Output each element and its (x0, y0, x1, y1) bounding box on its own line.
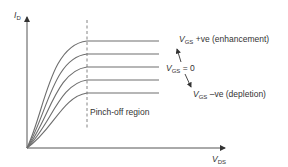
x-axis-label-var: V (212, 154, 218, 164)
depletion-label-var: V (193, 89, 199, 99)
vgs-zero-label-text: = 0 (180, 63, 194, 73)
y-axis-label-sub: D (16, 15, 20, 21)
diagram-canvas (0, 0, 288, 167)
drain-curves (27, 41, 159, 148)
enhancement-arrow (177, 49, 181, 62)
depletion-label-text: –ve (depletion) (207, 89, 266, 99)
vgs-zero-label: VGS = 0 (166, 64, 195, 73)
vgs-zero-label-sub: GS (172, 68, 181, 74)
y-axis-label: ID (14, 11, 21, 20)
x-axis-label: VDS (212, 155, 226, 164)
enhancement-label-var: V (179, 34, 185, 44)
curve-vgs-plus1 (27, 54, 159, 148)
enhancement-label-text: +ve (enhancement) (193, 34, 269, 44)
jfet-characteristic-diagram: ID VDS VGS +ve (enhancement) VGS = 0 VGS… (0, 0, 288, 167)
depletion-arrow (185, 74, 191, 87)
curve-vgs-plus2 (27, 41, 159, 148)
pinch-off-region-label: Pinch-off region (90, 108, 149, 117)
depletion-label: VGS –ve (depletion) (193, 90, 266, 99)
enhancement-label: VGS +ve (enhancement) (179, 35, 269, 44)
x-axis-label-sub: DS (218, 159, 226, 165)
depletion-label-sub: GS (199, 94, 208, 100)
enhancement-label-sub: GS (185, 39, 194, 45)
pinch-off-region-text: Pinch-off region (90, 107, 149, 117)
vgs-zero-label-var: V (166, 63, 172, 73)
